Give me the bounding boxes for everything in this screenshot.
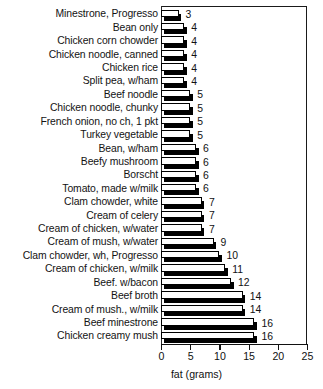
bar-face xyxy=(161,278,231,285)
bar-value-label: 11 xyxy=(232,264,243,275)
category-label: Beefy mushroom xyxy=(81,156,158,167)
bar-value-label: 7 xyxy=(209,210,215,221)
bar-value-label: 6 xyxy=(203,170,209,181)
bar-face xyxy=(161,23,184,30)
category-label: Turkey vegetable xyxy=(80,129,158,140)
bar-face xyxy=(161,157,196,164)
bar-face xyxy=(161,184,196,191)
bar-face xyxy=(161,238,214,245)
x-tick-label: 10 xyxy=(214,350,226,362)
bar-value-label: 14 xyxy=(250,291,262,302)
category-label: Chicken noodle, chunky xyxy=(50,102,158,113)
bar xyxy=(161,171,200,183)
category-label: Bean, w/ham xyxy=(98,143,158,154)
bar xyxy=(161,184,200,196)
bar-face xyxy=(161,318,254,325)
bar-value-label: 9 xyxy=(221,237,227,248)
category-label: French onion, no ch, 1 pkt xyxy=(40,116,158,127)
bar xyxy=(161,238,218,250)
bar xyxy=(161,90,194,102)
category-label: Clam chowder, white xyxy=(64,196,158,207)
category-label: Clam chowder, wh, Progresso xyxy=(23,250,158,261)
x-tick-label: 15 xyxy=(243,350,255,362)
bar xyxy=(161,305,247,317)
bar-value-label: 14 xyxy=(250,304,262,315)
bar xyxy=(161,130,194,142)
bar-value-label: 10 xyxy=(226,250,238,261)
category-label: Beef. w/bacon xyxy=(93,277,158,288)
x-tick-label: 25 xyxy=(302,350,314,362)
bar-value-label: 6 xyxy=(203,157,209,168)
category-label: Cream of mush., w/milk xyxy=(52,304,158,315)
bar-chart: Minestrone, ProgressoBean onlyChicken co… xyxy=(0,0,323,389)
bar-value-label: 6 xyxy=(203,143,209,154)
category-label: Cream of mush, w/water xyxy=(48,236,158,247)
bar-face xyxy=(161,332,254,339)
category-label: Cream of celery xyxy=(86,210,158,221)
x-axis-line xyxy=(161,344,308,345)
category-label: Minestrone, Progresso xyxy=(56,8,158,19)
bar xyxy=(161,23,188,35)
x-tick xyxy=(278,345,279,350)
bar-face xyxy=(161,10,179,17)
bar-value-label: 4 xyxy=(191,22,197,33)
bar-face xyxy=(161,50,184,57)
category-label: Chicken corn chowder xyxy=(57,35,158,46)
category-label: Beef noodle xyxy=(104,89,158,100)
bar-value-label: 4 xyxy=(191,49,197,60)
category-label: Chicken noodle, canned xyxy=(49,49,158,60)
bar xyxy=(161,103,194,115)
category-label: Split pea, w/ham xyxy=(83,75,158,86)
bar xyxy=(161,117,194,129)
x-tick-label: 5 xyxy=(188,350,194,362)
bar xyxy=(161,318,258,330)
bar-value-label: 5 xyxy=(197,89,203,100)
bar xyxy=(161,332,258,344)
category-label: Chicken creamy mush xyxy=(57,330,158,341)
category-label: Cream of chicken, w/water xyxy=(38,223,158,234)
bar-value-label: 12 xyxy=(238,277,250,288)
bar-value-label: 7 xyxy=(209,224,215,235)
bar-value-label: 5 xyxy=(197,116,203,127)
bar-face xyxy=(161,251,219,258)
bar xyxy=(161,144,200,156)
category-label: Cream of chicken, w/milk xyxy=(45,263,158,274)
category-label: Beef broth xyxy=(111,290,158,301)
bar-face xyxy=(161,197,202,204)
category-label: Borscht xyxy=(123,169,158,180)
bar-value-label: 4 xyxy=(191,76,197,87)
x-tick xyxy=(307,345,308,350)
x-axis-title: fat (grams) xyxy=(0,368,323,380)
bar-face xyxy=(161,224,202,231)
bar xyxy=(161,50,188,62)
x-tick xyxy=(249,345,250,350)
bar-value-label: 5 xyxy=(197,130,203,141)
bar xyxy=(161,278,235,290)
bar xyxy=(161,291,247,303)
bar-face xyxy=(161,264,225,271)
bar xyxy=(161,36,188,48)
category-label: Chicken rice xyxy=(102,62,158,73)
bar xyxy=(161,211,206,223)
x-tick xyxy=(190,345,191,350)
category-label: Tomato, made w/milk xyxy=(62,183,158,194)
bar-value-label: 3 xyxy=(186,9,192,20)
bar xyxy=(161,157,200,169)
bar-value-label: 4 xyxy=(191,36,197,47)
bar-value-label: 16 xyxy=(261,331,273,342)
x-axis-title-text: fat (grams) xyxy=(101,368,222,380)
x-tick-label: 20 xyxy=(272,350,284,362)
bar-face xyxy=(161,144,196,151)
category-label: Beef minestrone xyxy=(84,317,158,328)
bar xyxy=(161,251,223,263)
bar xyxy=(161,197,206,209)
bar xyxy=(161,10,183,22)
category-label: Bean only xyxy=(113,22,158,33)
bar-face xyxy=(161,130,190,137)
bar-value-label: 7 xyxy=(209,197,215,208)
bar xyxy=(161,264,229,276)
x-tick xyxy=(161,345,162,350)
bar-face xyxy=(161,305,243,312)
bar-face xyxy=(161,77,184,84)
bar-face xyxy=(161,90,190,97)
